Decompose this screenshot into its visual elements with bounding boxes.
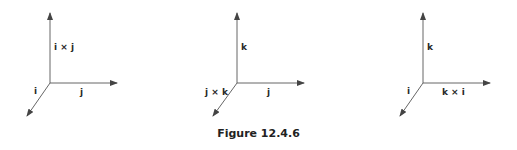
panel-3-up-label: k	[427, 43, 433, 52]
figure-caption: Figure 12.4.6	[0, 127, 517, 140]
panel-3-diag-axis	[400, 83, 423, 116]
panel-2-up-label: k	[241, 43, 247, 52]
panel-1-right-label: j	[80, 88, 83, 97]
panel-3-axes	[400, 13, 490, 116]
panel-1-axes	[27, 13, 117, 116]
panel-1-up-label: i × j	[54, 43, 74, 52]
panel-2-diag-label: j × k	[205, 88, 228, 97]
panel-3-right-label: k × i	[442, 88, 465, 97]
panel-2-axes	[213, 13, 304, 116]
panel-2-right-label: j	[267, 88, 270, 97]
panel-3-diag-label: i	[407, 87, 410, 96]
panel-1-diag-label: i	[34, 87, 37, 96]
panel-1-diag-axis	[27, 83, 50, 116]
